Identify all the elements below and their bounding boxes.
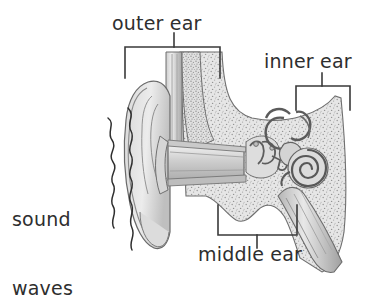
ear-canal [168, 140, 246, 186]
label-sound-waves: sound waves [12, 162, 73, 297]
ear-anatomy-figure: outer ear inner ear middle ear sound wav… [0, 0, 388, 297]
label-outer-ear: outer ear [112, 12, 202, 35]
label-sound-waves-line2: waves [12, 277, 73, 297]
label-middle-ear: middle ear [198, 243, 302, 266]
label-sound-waves-line1: sound [12, 208, 73, 231]
label-inner-ear: inner ear [264, 50, 352, 73]
